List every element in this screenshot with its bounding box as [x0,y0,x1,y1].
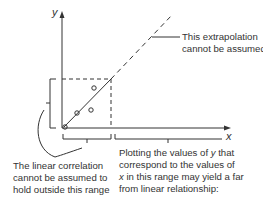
extrapolation-diagram: y x This extrapolation cannot be assumed… [0,0,263,211]
annotation-line: hold outside this range [13,184,110,196]
text: in this range may yield a far [124,171,244,182]
text: Plotting the values of [119,147,211,158]
annotation-line: cannot be assumed to [13,172,110,184]
y-axis-label: y [52,6,58,18]
annotation-line: cannot be assumed [182,43,263,55]
annotation-line: x in this range may yield a far [119,171,244,183]
annotation-line: from linear relationship: [119,183,244,195]
outside-range-bracket [115,134,222,139]
annotation-line: This extrapolation [182,31,263,43]
plotting-annotation: Plotting the values of y that correspond… [119,147,244,195]
data-point [75,111,79,115]
annotation-line: Plotting the values of y that [119,147,244,159]
y-range-bracket [50,79,56,128]
text: that [216,147,235,158]
x-axis-label: x [226,130,232,142]
regression-line [64,79,111,127]
data-point [92,86,96,90]
linear-correlation-annotation: The linear correlation cannot be assumed… [13,160,110,196]
x-range-bracket [63,134,111,139]
annotation-line: The linear correlation [13,160,110,172]
extrapolation-line [111,15,172,79]
annotation-line: correspond to the values of [119,159,244,171]
range-pointer-curve [38,110,82,157]
extrapolation-annotation: This extrapolation cannot be assumed [182,31,263,55]
y-axis-arrow-icon [60,11,65,18]
data-point [89,108,93,112]
